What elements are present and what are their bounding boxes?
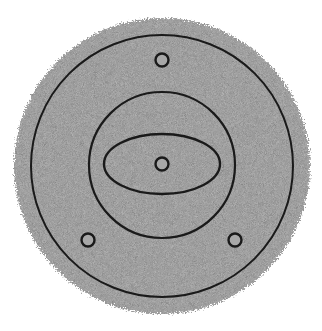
marker-top	[156, 54, 169, 67]
concentric-ring-diagram	[0, 0, 322, 331]
marker-bottom-left	[82, 234, 95, 247]
diagram-canvas	[0, 0, 322, 331]
marker-bottom-right	[229, 234, 242, 247]
marker-center	[156, 158, 169, 171]
